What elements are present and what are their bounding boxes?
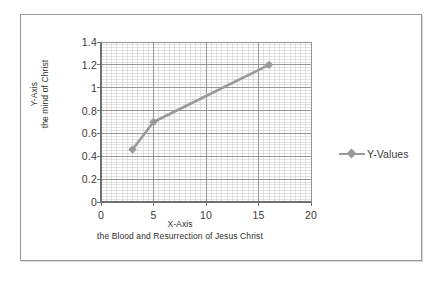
y-axis-title-line2: the mind of Christ: [40, 44, 51, 144]
legend-label-y-values: Y-Values: [367, 148, 409, 160]
chart-canvas: 00.20.40.60.811.21.4 05101520 Y-Axis the…: [21, 15, 423, 262]
x-axis-title-line1: X-Axis: [49, 218, 311, 230]
x-axis-title-line2: the Blood and Resurrection of Jesus Chri…: [49, 230, 311, 242]
x-axis-title: X-Axis the Blood and Resurrection of Jes…: [49, 218, 311, 242]
scanned-page-frame: 00.20.40.60.811.21.4 05101520 Y-Axis the…: [20, 14, 422, 261]
chart-legend: Y-Values: [339, 148, 409, 160]
y-axis-title: Y-Axis the mind of Christ: [29, 44, 55, 144]
legend-marker-icon: [339, 149, 365, 159]
y-axis-title-line1: Y-Axis: [29, 44, 40, 144]
